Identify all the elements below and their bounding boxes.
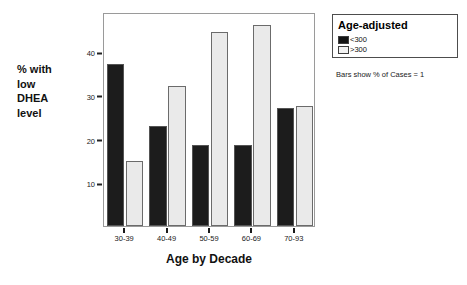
legend-label-gt-300: >300 (350, 45, 367, 54)
y-axis-tick-10: 10 (87, 180, 104, 189)
y-axis-tick-mark-icon (97, 96, 102, 98)
x-axis-label-50-59: 50-59 (199, 234, 218, 243)
bar-70-93-lt300[interactable] (277, 108, 295, 226)
bar-40-49-lt300[interactable] (149, 126, 167, 226)
x-axis-label-60-69: 60-69 (242, 234, 261, 243)
y-axis-title: % with low DHEA level (17, 62, 89, 120)
bars-layer (104, 14, 314, 226)
legend-item-gt-300[interactable]: >300 (338, 45, 367, 54)
bar-30-39-gt300[interactable] (126, 161, 144, 227)
bar-50-59-gt300[interactable] (211, 32, 229, 226)
x-axis-tick-mark-icon-30-39 (123, 228, 125, 233)
y-axis-title-line-1: % with (17, 62, 89, 77)
bar-group-40-49 (149, 14, 186, 226)
y-axis-tick-label: 20 (87, 136, 95, 145)
legend-title: Age-adjusted (338, 19, 408, 31)
bar-70-93-gt300[interactable] (296, 106, 314, 226)
bar-60-69-lt300[interactable] (234, 145, 252, 226)
x-axis-title: Age by Decade (103, 252, 315, 266)
y-axis-title-line-4: level (17, 106, 89, 121)
y-axis-tick-mark-icon (97, 183, 102, 185)
chart-legend: Age-adjusted <300 >300 (332, 14, 458, 58)
bar-group-70-93 (277, 14, 314, 226)
x-axis-label-40-49: 40-49 (157, 234, 176, 243)
y-axis-tick-30: 30 (87, 92, 104, 101)
x-axis-label-70-93: 70-93 (284, 234, 303, 243)
legend-caption: Bars show % of Cases = 1 (336, 70, 424, 79)
legend-swatch-icon-gt-300 (338, 46, 349, 54)
bar-40-49-gt300[interactable] (168, 86, 186, 226)
legend-swatch-icon-lt-300 (338, 36, 349, 44)
y-axis-tick-mark-icon (97, 52, 102, 54)
y-axis-tick-40: 40 (87, 49, 104, 58)
legend-item-lt-300[interactable]: <300 (338, 35, 367, 44)
bar-group-30-39 (107, 14, 144, 226)
bar-50-59-lt300[interactable] (192, 145, 210, 226)
bar-30-39-lt300[interactable] (107, 64, 125, 226)
chart-plot-area: 10203040 (103, 13, 315, 227)
y-axis-tick-mark-icon (97, 140, 102, 142)
y-axis-tick-label: 40 (87, 49, 95, 58)
y-axis-title-line-2: low (17, 77, 89, 92)
x-axis-tick-mark-icon-70-93 (293, 228, 295, 233)
y-axis-tick-label: 10 (87, 180, 95, 189)
y-axis-title-line-3: DHEA (17, 91, 89, 106)
x-axis-tick-mark-icon-60-69 (250, 228, 252, 233)
x-axis-tick-mark-icon-40-49 (166, 228, 168, 233)
x-axis-label-30-39: 30-39 (115, 234, 134, 243)
bar-group-50-59 (192, 14, 229, 226)
y-axis-tick-20: 20 (87, 136, 104, 145)
y-axis-tick-label: 30 (87, 92, 95, 101)
bar-60-69-gt300[interactable] (253, 25, 271, 226)
legend-label-lt-300: <300 (350, 35, 367, 44)
x-axis-tick-mark-icon-50-59 (208, 228, 210, 233)
bar-group-60-69 (234, 14, 271, 226)
